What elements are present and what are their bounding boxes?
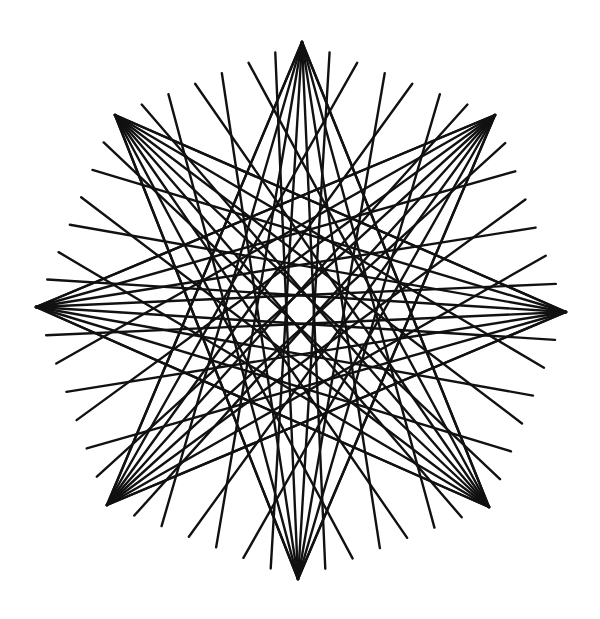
star-lines-group — [36, 42, 566, 579]
star-string-art-figure — [0, 0, 600, 619]
star-line-top-left-6 — [115, 115, 353, 558]
